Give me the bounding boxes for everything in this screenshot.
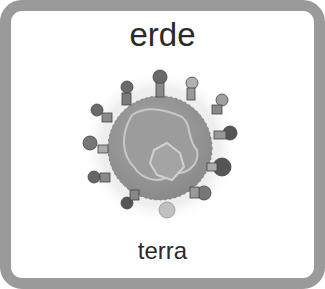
- earth-with-children-icon: [72, 55, 252, 225]
- word-translation: terra: [0, 237, 325, 265]
- word-german: erde: [0, 16, 325, 54]
